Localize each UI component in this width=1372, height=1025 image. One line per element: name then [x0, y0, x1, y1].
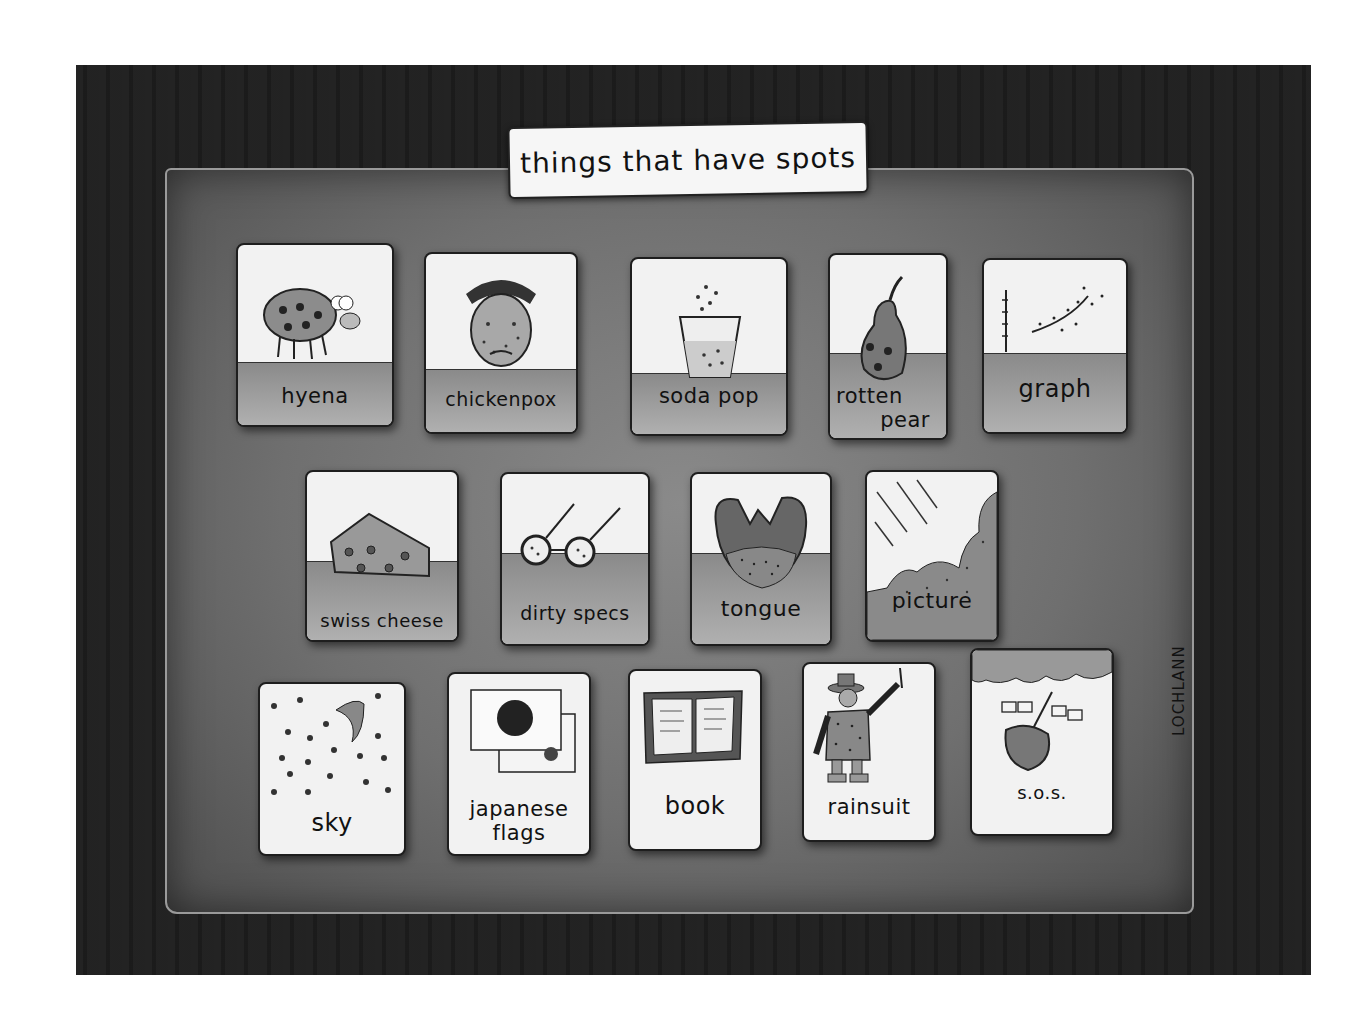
hyena-icon: [238, 245, 392, 375]
japanese-flag-icon: [449, 674, 589, 794]
card-label: hyena: [238, 385, 392, 407]
card-label: picture: [867, 590, 997, 612]
tongue-icon: [692, 474, 830, 604]
title-card: things that have spots: [507, 121, 868, 199]
card-swiss-cheese: swiss cheese: [305, 470, 459, 642]
card-label-line1: rotten: [830, 385, 946, 407]
card-rainsuit: rainsuit: [802, 662, 936, 842]
card-label-line2: flags: [449, 822, 589, 844]
card-tongue: tongue: [690, 472, 832, 646]
scatter-graph-icon: [984, 260, 1126, 360]
card-hyena: hyena: [236, 243, 394, 427]
card-graph: graph: [982, 258, 1128, 434]
dotted-picture-icon: [867, 472, 997, 640]
cheese-icon: [307, 472, 457, 592]
sinking-boat-flags-icon: [972, 650, 1112, 790]
card-book: book: [628, 669, 762, 851]
artist-signature: LOCHLANN: [1170, 645, 1188, 736]
card-label: graph: [984, 378, 1126, 400]
card-sky: sky: [258, 682, 406, 856]
card-label: sky: [260, 812, 404, 834]
card-label: dirty specs: [502, 602, 648, 624]
card-label-line2: pear: [830, 409, 946, 431]
card-sos: s.o.s.: [970, 648, 1114, 836]
card-dirty-specs: dirty specs: [500, 472, 650, 646]
night-sky-icon: [260, 684, 404, 804]
title-text: things that have spots: [520, 141, 856, 180]
sick-face-icon: [426, 254, 576, 384]
card-label: soda pop: [632, 385, 786, 407]
soda-glass-icon: [632, 259, 786, 379]
open-book-icon: [630, 671, 760, 781]
pear-icon: [830, 255, 946, 385]
card-chickenpox: chickenpox: [424, 252, 578, 434]
card-label: rainsuit: [804, 796, 934, 818]
card-label: swiss cheese: [307, 610, 457, 632]
card-japanese-flags: japanese flags: [447, 672, 591, 856]
card-label: tongue: [692, 598, 830, 620]
card-label: chickenpox: [426, 388, 576, 410]
card-soda-pop: soda pop: [630, 257, 788, 436]
man-in-rainsuit-icon: [804, 664, 934, 794]
card-picture: picture: [865, 470, 999, 642]
glasses-icon: [502, 474, 648, 584]
card-label-line1: japanese: [449, 798, 589, 820]
card-label: book: [630, 795, 760, 817]
card-rotten-pear: rotten pear: [828, 253, 948, 440]
card-label: s.o.s.: [972, 782, 1112, 804]
